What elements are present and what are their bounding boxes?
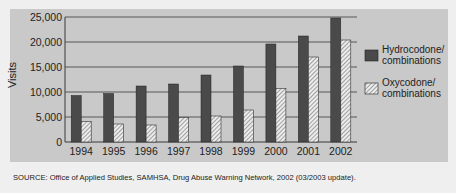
- y-tick-label: 20,000: [30, 36, 62, 48]
- x-tick-label: 1995: [102, 145, 126, 157]
- bar-hydrocodone: [201, 75, 211, 142]
- legend-item-hydrocodone: Hydrocodone/ combinations: [382, 44, 444, 66]
- bar-oxycodone: [146, 125, 156, 142]
- legend-label: combinations: [382, 88, 441, 99]
- y-axis-label: Visits: [6, 61, 18, 88]
- x-tick-label: 2002: [329, 145, 353, 157]
- bars: [71, 18, 351, 142]
- legend-label: Oxycodone/: [382, 77, 441, 88]
- x-axis-ticks: 199419951996199719981999200020012002: [70, 145, 353, 157]
- bar-oxycodone: [211, 116, 221, 142]
- bar-hydrocodone: [136, 86, 146, 142]
- bar-hydrocodone: [169, 84, 179, 142]
- bar-hydrocodone: [331, 18, 341, 142]
- bar-hydrocodone: [266, 44, 276, 142]
- bar-oxycodone: [114, 124, 124, 142]
- y-tick-label: 10,000: [30, 86, 62, 98]
- bar-oxycodone: [81, 122, 91, 143]
- bar-hydrocodone: [233, 66, 243, 142]
- bar-oxycodone: [341, 40, 351, 142]
- x-tick-label: 1999: [232, 145, 256, 157]
- legend-swatch-hydrocodone: [365, 50, 378, 61]
- bar-hydrocodone: [298, 36, 308, 142]
- x-tick-label: 1997: [167, 145, 191, 157]
- bar-oxycodone: [308, 57, 318, 142]
- source-note: SOURCE: Office of Applied Studies, SAMHS…: [13, 173, 356, 182]
- bar-oxycodone: [243, 110, 253, 142]
- y-tick-label: 0: [56, 136, 62, 148]
- x-tick-label: 1998: [199, 145, 223, 157]
- x-tick-label: 1996: [134, 145, 158, 157]
- legend-swatch-oxycodone: [365, 83, 378, 94]
- legend: [365, 50, 378, 94]
- bar-hydrocodone: [104, 94, 114, 143]
- y-tick-label: 5,000: [36, 111, 62, 123]
- x-tick-label: 2001: [297, 145, 321, 157]
- legend-item-oxycodone: Oxycodone/ combinations: [382, 77, 441, 99]
- y-axis-ticks: 05,00010,00015,00020,00025,000: [30, 11, 62, 148]
- bar-hydrocodone: [71, 96, 81, 143]
- legend-label: combinations: [382, 55, 444, 66]
- bar-oxycodone: [179, 118, 189, 143]
- y-tick-label: 15,000: [30, 61, 62, 73]
- legend-label: Hydrocodone/: [382, 44, 444, 55]
- y-tick-label: 25,000: [30, 11, 62, 23]
- x-tick-label: 2000: [264, 145, 288, 157]
- x-tick-label: 1994: [70, 145, 94, 157]
- bar-oxycodone: [276, 89, 286, 143]
